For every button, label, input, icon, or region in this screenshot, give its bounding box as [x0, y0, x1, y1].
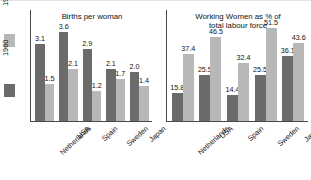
bar-value-label: 43.6	[292, 34, 306, 42]
bar-1960-usa: 3.6	[59, 32, 68, 121]
bar-group: 3.11.5	[35, 22, 54, 121]
bar-1999-sweden: 1.7	[116, 79, 125, 121]
category-label-spain: Spain	[100, 124, 120, 143]
bar-1960-sweden: 25.5	[255, 75, 266, 121]
bar-1960-spain: 2.9	[83, 49, 92, 121]
bar-1960-japan: 2.0	[130, 72, 139, 122]
bar-value-label: 2.0	[129, 63, 139, 71]
bar-value-label: 2.9	[82, 40, 92, 48]
bar-group: 14.432.4	[227, 22, 249, 121]
bar-value-label: 32.4	[237, 54, 251, 62]
y-axis-line-births	[30, 10, 31, 122]
bar-group: 3.62.1	[59, 22, 78, 121]
plot-area-births: 3.11.53.62.12.91.22.11.72.01.4	[33, 22, 151, 121]
bar-group: 15.837.4	[172, 22, 194, 121]
bar-1960-usa: 25.5	[199, 75, 210, 121]
bar-value-label: 3.6	[59, 23, 69, 31]
bar-1999-netherlands: 1.5	[45, 84, 54, 121]
bar-group: 36.143.6	[282, 22, 304, 121]
x-axis-line-births	[30, 121, 152, 122]
chart-panel-births: Births per woman 3.11.53.62.12.91.22.11.…	[24, 4, 154, 176]
bar-group: 2.91.2	[83, 22, 102, 121]
bar-1960-netherlands: 15.8	[172, 93, 183, 121]
bar-group: 25.546.5	[199, 22, 221, 121]
bar-1999-spain: 32.4	[238, 63, 249, 121]
bar-value-label: 3.1	[35, 35, 45, 43]
bar-1960-netherlands: 3.1	[35, 44, 44, 121]
legend-label-1999: 1999	[1, 0, 10, 6]
x-axis-line-working-women	[166, 121, 308, 122]
bar-1999-usa: 46.5	[210, 37, 221, 121]
bar-group: 2.01.4	[130, 22, 149, 121]
bar-1960-spain: 14.4	[227, 95, 238, 121]
category-label-spain: Spain	[246, 124, 266, 143]
bar-value-label: 1.7	[115, 70, 125, 78]
bar-value-label: 1.2	[92, 82, 102, 90]
bar-1960-sweden: 2.1	[106, 69, 115, 121]
legend-label-1960: 1960	[1, 40, 10, 56]
page-top-rule	[0, 0, 311, 1]
bar-value-label: 1.4	[139, 77, 149, 85]
bar-1999-netherlands: 37.4	[183, 54, 194, 121]
legend-swatch-1960	[4, 84, 15, 97]
bar-group: 25.551.5	[255, 22, 277, 121]
bar-1960-japan: 36.1	[282, 56, 293, 121]
chart-legend: 1999 1960	[0, 6, 22, 111]
category-label-japan: Japan	[302, 124, 311, 144]
chart-title-births: Births per woman	[32, 12, 152, 21]
chart-panel-working-women: Working Women as % of total labour force…	[160, 4, 310, 176]
chart-page: 1999 1960 Births per woman 3.11.53.62.12…	[0, 0, 311, 180]
plot-area-working-women: 15.837.425.546.514.432.425.551.536.143.6	[169, 22, 307, 121]
bar-1999-spain: 1.2	[92, 91, 101, 121]
bar-1999-japan: 1.4	[139, 86, 148, 121]
bar-1999-japan: 43.6	[293, 43, 304, 121]
bar-value-label: 1.5	[45, 75, 55, 83]
bar-value-label: 51.5	[264, 19, 278, 27]
bar-1999-sweden: 51.5	[266, 28, 277, 121]
bar-group: 2.11.7	[106, 22, 125, 121]
bar-value-label: 2.1	[68, 60, 78, 68]
bar-value-label: 2.1	[106, 60, 116, 68]
bar-value-label: 37.4	[181, 45, 195, 53]
category-label-sweden: Sweden	[276, 124, 301, 148]
bar-1999-usa: 2.1	[68, 69, 77, 121]
bar-value-label: 46.5	[209, 28, 223, 36]
y-axis-line-working-women	[166, 10, 167, 122]
